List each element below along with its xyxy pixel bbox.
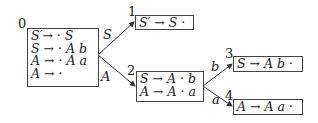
edge-2-4-label: a bbox=[212, 93, 220, 106]
state-2-item: A → A · a bbox=[140, 86, 200, 99]
state-0: S′→ · S S → · A b A → · A a A → · bbox=[27, 28, 99, 87]
state-0-item: A → · bbox=[31, 68, 95, 81]
state-4: A → A a · bbox=[233, 99, 303, 115]
state-3-item: S → A b · bbox=[237, 58, 299, 71]
state-0-number: 0 bbox=[18, 17, 26, 30]
edge-0-2-label: A bbox=[101, 70, 110, 83]
state-3: S → A b · bbox=[233, 56, 303, 72]
state-2-number: 2 bbox=[127, 64, 135, 77]
state-4-item: A → A a · bbox=[237, 101, 299, 114]
edge-2-3-label: b bbox=[211, 60, 219, 73]
state-1: S′ → S · bbox=[135, 15, 194, 30]
edge-0-1-label: S bbox=[103, 28, 112, 41]
state-1-item: S′ → S · bbox=[139, 17, 190, 30]
state-2: S → A · b A → A · a bbox=[136, 71, 204, 102]
